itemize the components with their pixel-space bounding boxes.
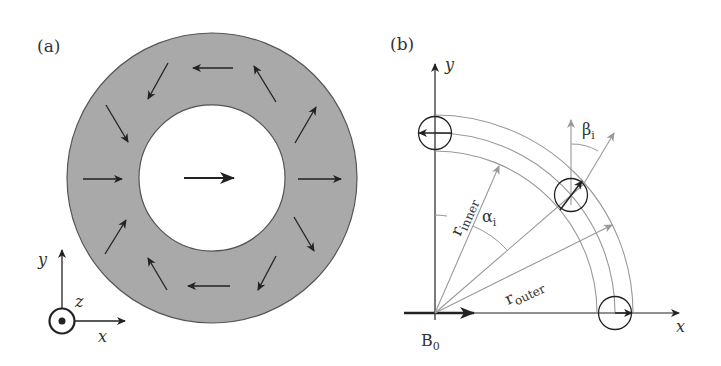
alpha-label: αi [482, 207, 497, 229]
beta-angle-arc [571, 144, 598, 151]
panel-b-label: (b) [390, 34, 414, 54]
b0-label: B0 [421, 331, 440, 353]
z-axis-dot [59, 318, 66, 325]
beta-label: βi [582, 120, 595, 142]
panel-a: (a) y z x [37, 33, 357, 346]
panel-a-label: (a) [37, 36, 60, 56]
panel-b: (b) y x B0 rinner router [390, 34, 685, 353]
r-outer-label: router [502, 274, 548, 311]
magnet-middle: βi [555, 120, 615, 212]
x-axis-label-b: x [676, 317, 685, 336]
small-angle-arc [435, 215, 447, 216]
y-axis-label: y [37, 250, 48, 269]
beta-direction-arrow [583, 133, 614, 185]
y-axis-label-b: y [444, 55, 455, 74]
x-axis-label: x [98, 327, 107, 346]
halbach-diagram: (a) y z x [0, 0, 721, 366]
r-inner-arrow [435, 166, 499, 313]
z-axis-label: z [74, 292, 84, 311]
alpha-angle-arc [473, 226, 507, 250]
